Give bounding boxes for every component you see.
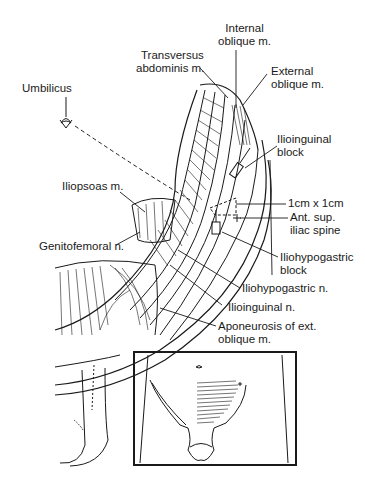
- label-internal-oblique: Internal oblique m.: [218, 22, 271, 48]
- inset-frontal-view: [134, 352, 296, 465]
- umbilicus-icon: [60, 97, 72, 128]
- label-aponeurosis: Aponeurosis of ext. oblique m.: [218, 320, 316, 346]
- label-umbilicus: Umbilicus: [22, 82, 72, 95]
- label-ilioinguinal-n: Ilioinguinal n.: [228, 301, 295, 314]
- needle-ilioinguinal: [230, 148, 250, 178]
- label-transversus: Transversus abdominis m.: [136, 49, 204, 75]
- label-asis: Ant. sup. iliac spine: [290, 211, 341, 237]
- thigh-outline: [55, 355, 120, 466]
- label-iliopsoas: Iliopsoas m.: [62, 180, 123, 193]
- iliopsoas-muscle: [132, 198, 175, 242]
- label-iliohypogastric-n: Iliohypogastric n.: [242, 282, 328, 295]
- label-genitofemoral: Genitofemoral n.: [39, 240, 124, 253]
- needle-iliohypogastric: [212, 210, 220, 234]
- label-external-oblique: External oblique m.: [271, 65, 324, 91]
- block-square: [210, 198, 236, 215]
- label-ilioinguinal-block: Ilioinguinal block: [277, 133, 331, 159]
- label-1cm: 1cm x 1cm: [288, 197, 344, 210]
- label-iliohypogastric-block: Iliohypogastric block: [280, 251, 354, 277]
